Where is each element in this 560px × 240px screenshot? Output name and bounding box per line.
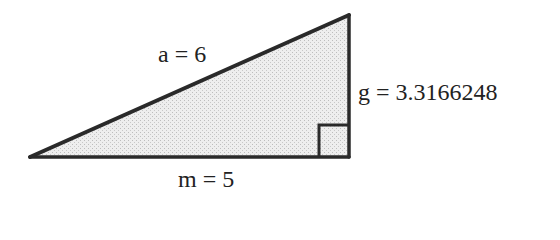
base-label: m = 5 [178, 167, 234, 191]
height-label: g = 3.3166248 [358, 80, 498, 104]
hypotenuse-label: a = 6 [158, 42, 206, 66]
